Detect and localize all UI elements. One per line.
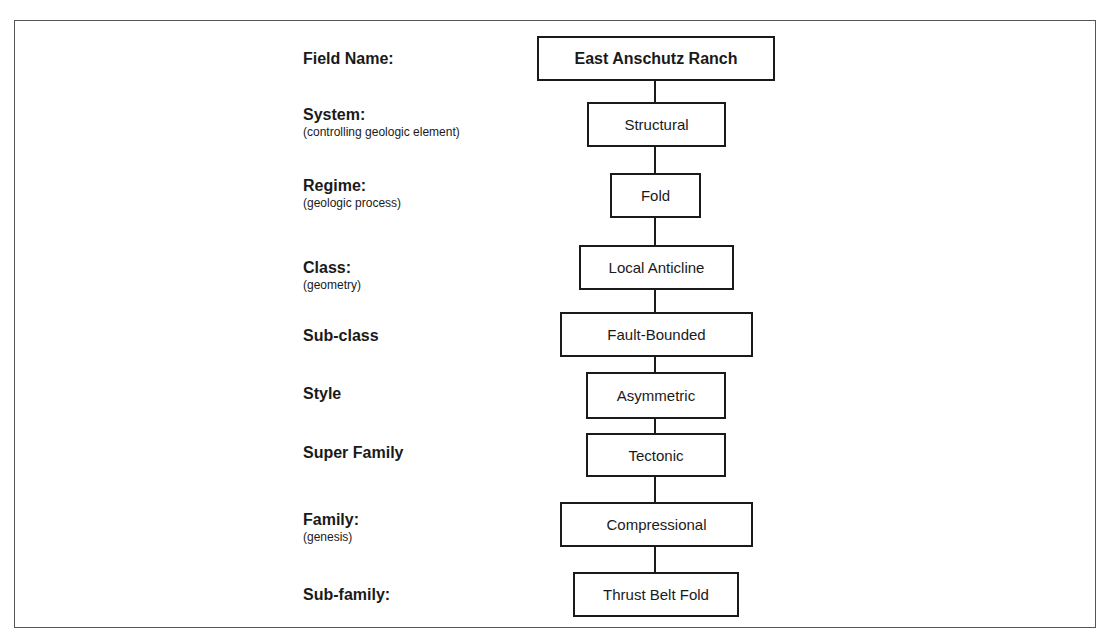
label-class: Class: (geometry) — [303, 259, 361, 292]
label-super-family: Super Family — [303, 444, 403, 462]
label-sub-family: Sub-family: — [303, 586, 390, 604]
connector — [654, 80, 656, 102]
label-field-name: Field Name: — [303, 50, 394, 68]
node-system: Structural — [587, 102, 726, 147]
node-class: Local Anticline — [579, 245, 734, 290]
label-style: Style — [303, 385, 341, 403]
label-sub-class: Sub-class — [303, 327, 379, 345]
connector — [654, 289, 656, 312]
node-regime: Fold — [610, 173, 701, 218]
diagram-frame — [14, 20, 1096, 628]
label-regime: Regime: (geologic process) — [303, 177, 401, 210]
label-system: System: (controlling geologic element) — [303, 106, 460, 139]
node-field-name: East Anschutz Ranch — [537, 36, 775, 81]
connector — [654, 546, 656, 572]
connector — [654, 418, 656, 433]
node-sub-class: Fault-Bounded — [560, 312, 753, 357]
node-family: Compressional — [560, 502, 753, 547]
connector — [654, 146, 656, 173]
node-super-family: Tectonic — [586, 433, 726, 477]
connector — [654, 476, 656, 502]
node-sub-family: Thrust Belt Fold — [573, 572, 739, 617]
node-style: Asymmetric — [586, 372, 726, 419]
label-family: Family: (genesis) — [303, 511, 359, 544]
connector — [654, 356, 656, 372]
connector — [654, 217, 656, 245]
